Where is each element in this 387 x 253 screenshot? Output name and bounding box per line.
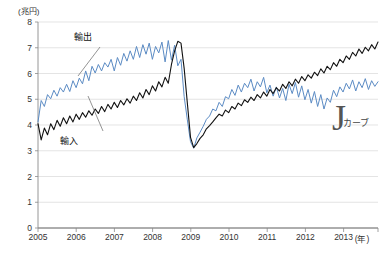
- data-series-group: [38, 41, 378, 149]
- annotation-leader-lines: [78, 47, 103, 131]
- leader-line-exports: [78, 47, 100, 76]
- x-tick-label-2005: 2005: [18, 232, 58, 242]
- x-axis-unit-label: (年): [342, 232, 382, 244]
- y-tick-label-3: 3: [16, 146, 32, 156]
- gridlines-group: [38, 22, 378, 228]
- series-line-exports: [38, 41, 378, 149]
- x-tick-label-2008: 2008: [133, 232, 173, 242]
- chart-container: (兆円) 012345678 2005200620072008200920102…: [0, 0, 387, 253]
- y-tick-label-5: 5: [16, 94, 32, 104]
- series-line-imports: [38, 41, 378, 147]
- x-tick-label-2007: 2007: [94, 232, 134, 242]
- x-tick-marks-group: [35, 22, 378, 232]
- y-tick-label-6: 6: [16, 69, 32, 79]
- x-tick-label-2011: 2011: [247, 232, 287, 242]
- x-tick-label-2012: 2012: [285, 232, 325, 242]
- y-tick-label-2: 2: [16, 172, 32, 182]
- x-tick-label-2010: 2010: [209, 232, 249, 242]
- y-tick-label-1: 1: [16, 197, 32, 207]
- chart-plot-area: [0, 0, 387, 253]
- j-curve-kana-label: カーブ: [343, 118, 369, 128]
- series-label-imports: 輸入: [60, 134, 78, 147]
- y-tick-label-8: 8: [16, 17, 32, 27]
- x-tick-label-2006: 2006: [56, 232, 96, 242]
- series-label-exports: 輸出: [74, 30, 92, 43]
- y-tick-label-7: 7: [16, 43, 32, 53]
- x-tick-label-2009: 2009: [171, 232, 211, 242]
- y-tick-label-4: 4: [16, 120, 32, 130]
- j-curve-annotation: Jカーブ: [332, 100, 372, 136]
